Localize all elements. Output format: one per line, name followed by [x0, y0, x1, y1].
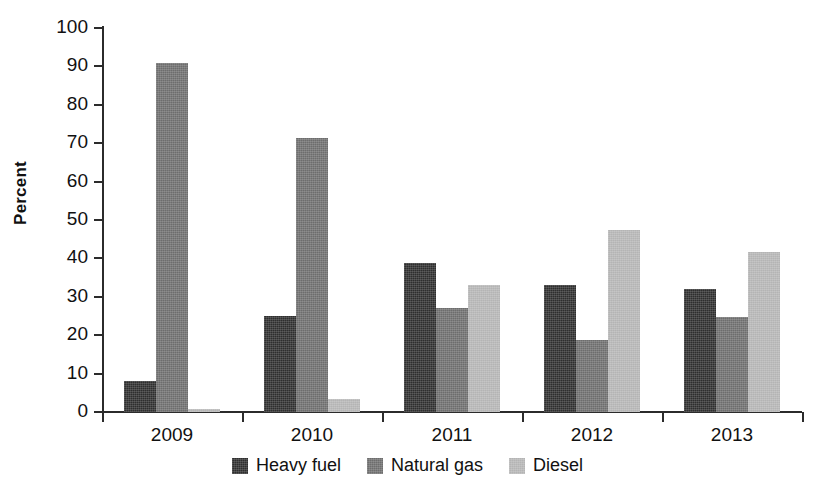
legend-label: Natural gas	[391, 455, 483, 476]
bar-2011-gas	[436, 308, 468, 412]
y-axis-title: Percent	[11, 133, 31, 253]
x-axis-tick	[662, 412, 664, 422]
bar-2012-gas	[576, 340, 608, 412]
y-axis-tick-label: 80	[46, 94, 88, 113]
y-axis-tick-label: 10	[46, 363, 88, 382]
y-axis-tick-label: 20	[46, 324, 88, 343]
legend-item-heavy: Heavy fuel	[232, 455, 341, 476]
legend-label: Diesel	[533, 455, 583, 476]
bar-2012-diesel	[608, 230, 640, 412]
x-axis-tick-label-2010: 2010	[242, 424, 382, 446]
legend-swatch-icon	[232, 458, 248, 474]
legend-label: Heavy fuel	[256, 455, 341, 476]
x-axis-tick	[102, 412, 104, 422]
x-axis-tick	[522, 412, 524, 422]
bar-2009-diesel	[188, 409, 220, 412]
x-axis-tick-label-2012: 2012	[522, 424, 662, 446]
bar-2013-heavy	[684, 289, 716, 412]
bar-2012-heavy	[544, 285, 576, 412]
legend-item-diesel: Diesel	[509, 455, 583, 476]
y-axis-tick-label: 30	[46, 286, 88, 305]
chart-legend: Heavy fuelNatural gasDiesel	[0, 455, 815, 476]
bar-2013-gas	[716, 317, 748, 412]
y-axis-tick-label: 100	[46, 17, 88, 36]
x-axis-tick	[242, 412, 244, 422]
legend-item-gas: Natural gas	[367, 455, 483, 476]
y-axis-tick-label: 50	[46, 209, 88, 228]
legend-swatch-icon	[509, 458, 525, 474]
x-axis-tick	[382, 412, 384, 422]
x-axis-tick-label-2009: 2009	[102, 424, 242, 446]
bars-layer	[102, 28, 802, 412]
bar-2011-heavy	[404, 263, 436, 412]
y-axis-tick-label: 0	[46, 401, 88, 420]
bar-2009-gas	[156, 63, 188, 412]
bar-chart: Percent 0102030405060708090100 200920102…	[0, 0, 815, 495]
bar-2011-diesel	[468, 285, 500, 412]
bar-2010-gas	[296, 138, 328, 412]
y-axis-tick-label: 90	[46, 55, 88, 74]
y-axis-tick-label: 60	[46, 171, 88, 190]
y-axis-tick-label: 40	[46, 247, 88, 266]
bar-2009-heavy	[124, 381, 156, 412]
legend-swatch-icon	[367, 458, 383, 474]
bar-2010-diesel	[328, 399, 360, 412]
x-axis-tick-label-2013: 2013	[662, 424, 802, 446]
bar-2013-diesel	[748, 252, 780, 412]
bar-2010-heavy	[264, 316, 296, 412]
x-axis-tick-label-2011: 2011	[382, 424, 522, 446]
x-axis-tick	[802, 412, 804, 422]
y-axis-tick-label: 70	[46, 132, 88, 151]
